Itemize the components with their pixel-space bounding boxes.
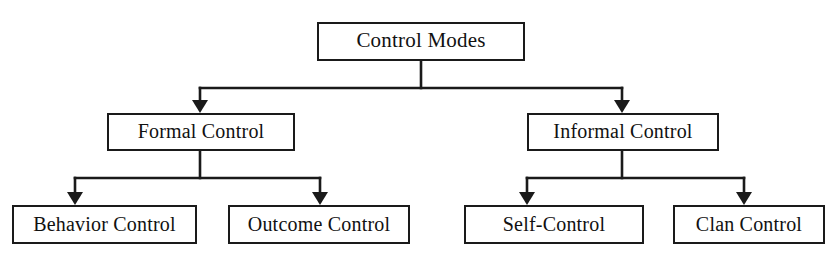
arrowhead-self-control [519,192,535,205]
connector-formal-to-leaves [67,151,328,205]
connector-informal-to-leaves [519,151,752,205]
node-formal-control: Formal Control [107,113,295,151]
arrowhead-outcome-control [312,192,328,205]
node-clan-control: Clan Control [673,205,825,244]
arrowhead-behavior-control [67,192,83,205]
node-informal-control: Informal Control [527,113,719,151]
node-outcome-control-label: Outcome Control [248,214,390,236]
node-behavior-control-label: Behavior Control [33,214,176,236]
arrowhead-formal-control [192,100,208,113]
node-outcome-control: Outcome Control [228,205,410,244]
node-control-modes: Control Modes [317,22,525,61]
node-formal-control-label: Formal Control [138,121,265,143]
arrowhead-clan-control [736,192,752,205]
node-informal-control-label: Informal Control [553,121,692,143]
connector-root-to-tier2 [192,61,630,113]
control-modes-diagram: Control Modes Formal Control Informal Co… [0,0,839,258]
node-self-control-label: Self-Control [503,214,605,236]
node-self-control: Self-Control [464,205,644,244]
node-control-modes-label: Control Modes [356,30,485,53]
node-clan-control-label: Clan Control [696,214,802,236]
arrowhead-informal-control [614,100,630,113]
node-behavior-control: Behavior Control [12,205,197,244]
